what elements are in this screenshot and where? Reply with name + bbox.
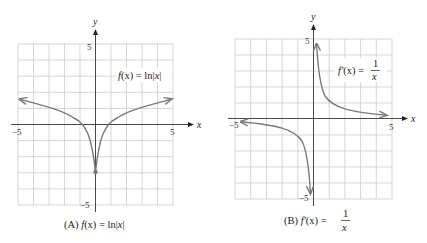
chart-b-label-numerator: 1 — [373, 58, 378, 69]
chart-a-y-label: y — [92, 16, 98, 27]
figure: x y −5 5 5 −5 f(x) = ln|x| (A) f(x) = ln… — [0, 0, 427, 243]
chart-b-caption-denominator: x — [341, 222, 347, 233]
chart-a-function-label: f(x) = ln|x| — [118, 70, 161, 82]
chart-a-tick-x-min: −5 — [12, 127, 22, 137]
chart-b-caption: (B) f′(x) = — [284, 215, 327, 227]
chart-a-curve-left — [20, 99, 96, 172]
chart-b-y-label: y — [310, 11, 316, 22]
chart-b-x-label: x — [410, 113, 416, 124]
chart-b-tick-x-max: 5 — [389, 122, 394, 132]
chart-b-tick-y-min: −5 — [299, 193, 309, 203]
chart-a-tick-y-min: −5 — [80, 200, 90, 210]
chart-b-caption-numerator: 1 — [343, 208, 348, 219]
chart-a-curve-right — [96, 99, 172, 172]
chart-b: x y −5 5 5 −5 f′(x) = 1 x (B) f′(x) = 1 … — [228, 11, 416, 233]
chart-a-caption: (A) f(x) = ln|x| — [64, 219, 125, 231]
chart-a-tick-y-max: 5 — [87, 42, 92, 52]
chart-b-tick-x-min: −5 — [229, 120, 239, 130]
chart-b-label-denominator: x — [371, 71, 377, 82]
chart-b-function-label: f′(x) = — [338, 65, 364, 77]
chart-a-x-label: x — [196, 119, 202, 130]
chart-a: x y −5 5 5 −5 f(x) = ln|x| (A) f(x) = ln… — [11, 16, 202, 231]
chart-a-tick-x-max: 5 — [170, 127, 175, 137]
chart-b-tick-y-max: 5 — [305, 36, 310, 46]
chart-a-point — [93, 170, 97, 174]
chart-b-curve-negative — [241, 122, 310, 193]
